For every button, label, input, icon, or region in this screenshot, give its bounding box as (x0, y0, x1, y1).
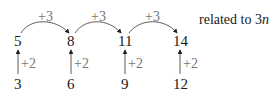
step-label-v1: +2 (21, 57, 36, 71)
bottom-value-2: 6 (67, 77, 75, 92)
top-value-3: 11 (118, 34, 132, 49)
top-value-1: 5 (14, 34, 22, 49)
step-label-h1: +3 (38, 10, 53, 24)
step-label-v3: +2 (128, 57, 143, 71)
top-value-4: 14 (173, 34, 188, 49)
top-value-2: 8 (67, 34, 75, 49)
bottom-value-3: 9 (121, 77, 129, 92)
bottom-value-4: 12 (173, 77, 188, 92)
relation-note: related to 3n (199, 13, 269, 27)
bottom-value-1: 3 (14, 77, 22, 92)
step-label-v4: +2 (183, 57, 198, 71)
step-label-h2: +3 (91, 10, 106, 24)
step-label-h3: +3 (145, 10, 160, 24)
note-variable: n (262, 12, 269, 27)
step-label-v2: +2 (74, 57, 89, 71)
note-text: related to 3 (199, 12, 262, 27)
